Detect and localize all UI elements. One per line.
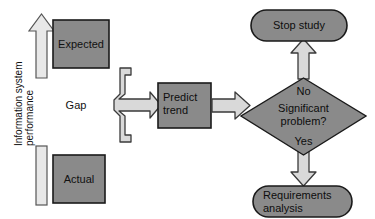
node-stop-study[interactable]: Stop study: [251, 10, 347, 41]
node-decision-label-line2: problem?: [281, 115, 327, 127]
node-stop-study-label: Stop study: [273, 19, 325, 31]
node-requirements-analysis[interactable]: Requirements analysis: [253, 186, 352, 217]
brace-to-predict-arrow-icon: [114, 68, 161, 142]
node-requirements-label-line1: Requirements: [263, 189, 332, 201]
decision-to-stop-arrow-icon: [291, 39, 316, 79]
axis-baseline-bar: [36, 146, 47, 205]
node-predict-trend-label-line2: trend: [163, 104, 188, 116]
node-actual[interactable]: Actual: [53, 155, 105, 203]
node-actual-label: Actual: [64, 173, 95, 185]
node-gap-label: Gap: [66, 99, 87, 111]
node-predict-trend-label-line1: Predict: [163, 91, 197, 103]
node-predict-trend[interactable]: Predict trend: [158, 83, 211, 128]
flowchart-svg: Information system performance Expected …: [0, 0, 375, 219]
flowchart-canvas: Information system performance Expected …: [0, 0, 375, 219]
branch-label-no: No: [296, 85, 310, 97]
axis-label-line1: Information system: [13, 62, 24, 146]
node-decision[interactable]: No Significant problem? Yes: [241, 78, 366, 155]
branch-label-yes: Yes: [295, 135, 313, 147]
node-decision-label-line1: Significant: [278, 102, 329, 114]
axis-up-arrow-icon: [29, 14, 54, 78]
node-expected[interactable]: Expected: [53, 20, 109, 68]
node-requirements-label-line2: analysis: [263, 202, 303, 214]
axis-label-line2: performance: [24, 89, 35, 146]
node-expected-label: Expected: [58, 38, 104, 50]
